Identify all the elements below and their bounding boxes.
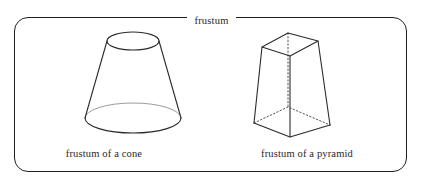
cone-bottom-back-arc (85, 103, 181, 118)
caption-frustum-of-a-pyramid: frustum of a pyramid (212, 147, 402, 160)
pyramid-bottom-hidden-edges (254, 107, 330, 125)
caption-frustum-of-a-cone: frustum of a cone (0, 147, 208, 160)
pyramid-bottom-front-edges (254, 123, 330, 137)
pyramid-right-lateral-edge (318, 41, 330, 125)
cone-bottom-front-arc (85, 118, 181, 133)
pyramid-frustum-drawing (236, 24, 386, 149)
cone-top-ellipse (107, 32, 159, 50)
pyramid-top-face (262, 33, 318, 56)
cone-frustum-drawing (58, 24, 208, 144)
pyramid-left-lateral-edge (254, 47, 262, 123)
figure-root: frustum frustum of a cone frustum of a p… (0, 0, 423, 182)
